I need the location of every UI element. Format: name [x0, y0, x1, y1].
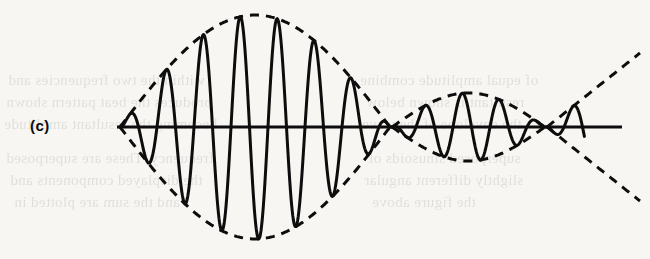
lower-envelope-curve [120, 127, 640, 239]
beat-waveform-plot [0, 0, 650, 259]
figure-panel-c: within the two frequencies andproduces t… [0, 0, 650, 259]
